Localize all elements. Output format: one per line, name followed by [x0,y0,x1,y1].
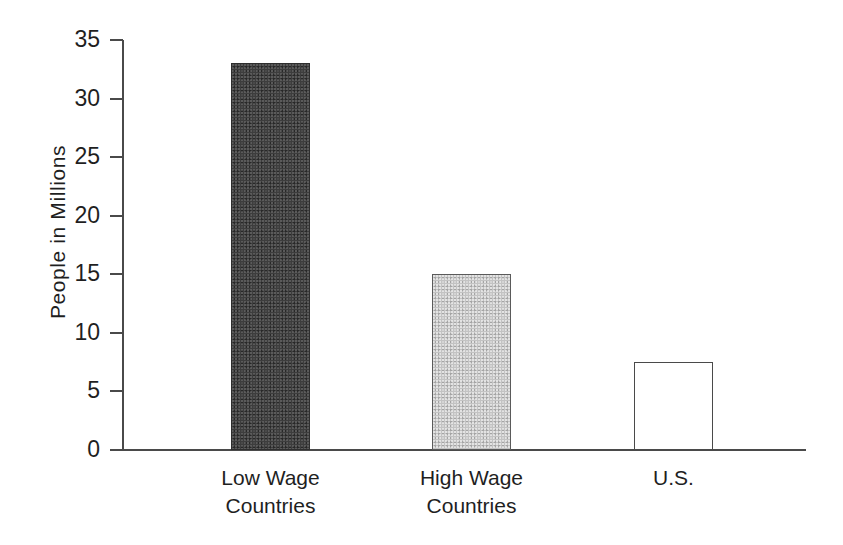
bar [432,274,511,450]
x-axis-category-label-line: U.S. [569,464,779,492]
bar [634,362,713,450]
x-axis-category-label: U.S. [569,464,779,492]
x-axis-category-label-line: Countries [367,492,577,520]
bar [231,63,310,450]
x-axis-category-label: Low WageCountries [166,464,376,519]
bar-chart: People in Millions 05101520253035 Low Wa… [0,0,843,545]
x-axis-category-label-line: Low Wage [166,464,376,492]
x-axis-category-label: High WageCountries [367,464,577,519]
x-axis-category-label-line: High Wage [367,464,577,492]
x-axis-category-label-line: Countries [166,492,376,520]
